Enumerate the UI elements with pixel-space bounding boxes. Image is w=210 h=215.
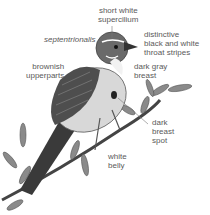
label-breast-spot: dark breast spot [152,118,174,145]
bird-tail [20,120,75,195]
bird-beak [124,42,138,51]
label-supercilium: short white supercilium [98,6,138,24]
breast-spot [111,91,117,99]
label-upperparts: brownish upperparts [26,62,64,80]
label-throat-stripes: distinctive black and white throat strip… [144,30,199,57]
label-breast: dark gray breast [134,62,167,80]
label-belly: white belly [108,152,127,170]
label-species: septentrionalis [44,35,96,44]
bird-eye [114,45,118,49]
